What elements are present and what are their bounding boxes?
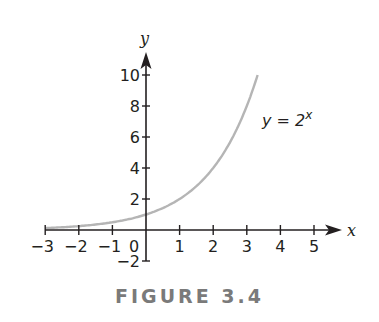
- y-tick-label: 8: [130, 97, 140, 116]
- y-tick-label: 4: [130, 159, 140, 178]
- y-tick-label: −2: [116, 252, 140, 271]
- y-tick-label: 2: [130, 190, 140, 209]
- x-tick-label: 2: [208, 237, 218, 256]
- y-axis-label: y: [139, 29, 150, 48]
- x-axis-label: x: [347, 221, 356, 240]
- x-tick-label: 3: [242, 237, 252, 256]
- curve-y-equals-2-to-x: [45, 75, 257, 228]
- function-label: y = 2x: [261, 108, 313, 130]
- y-tick-label: 10: [120, 66, 140, 85]
- x-tick-label: 4: [275, 237, 285, 256]
- x-tick-label: −2: [64, 237, 88, 256]
- exponential-chart: −3−2−1012345 −2246810 x y y = 2x: [0, 0, 379, 322]
- x-tick-label: −3: [30, 237, 54, 256]
- x-axis: −3−2−1012345: [30, 225, 342, 257]
- x-tick-label: 1: [175, 237, 185, 256]
- x-tick-label: 5: [309, 237, 319, 256]
- y-tick-label: 6: [130, 128, 140, 147]
- figure-caption: FIGURE 3.4: [0, 285, 379, 307]
